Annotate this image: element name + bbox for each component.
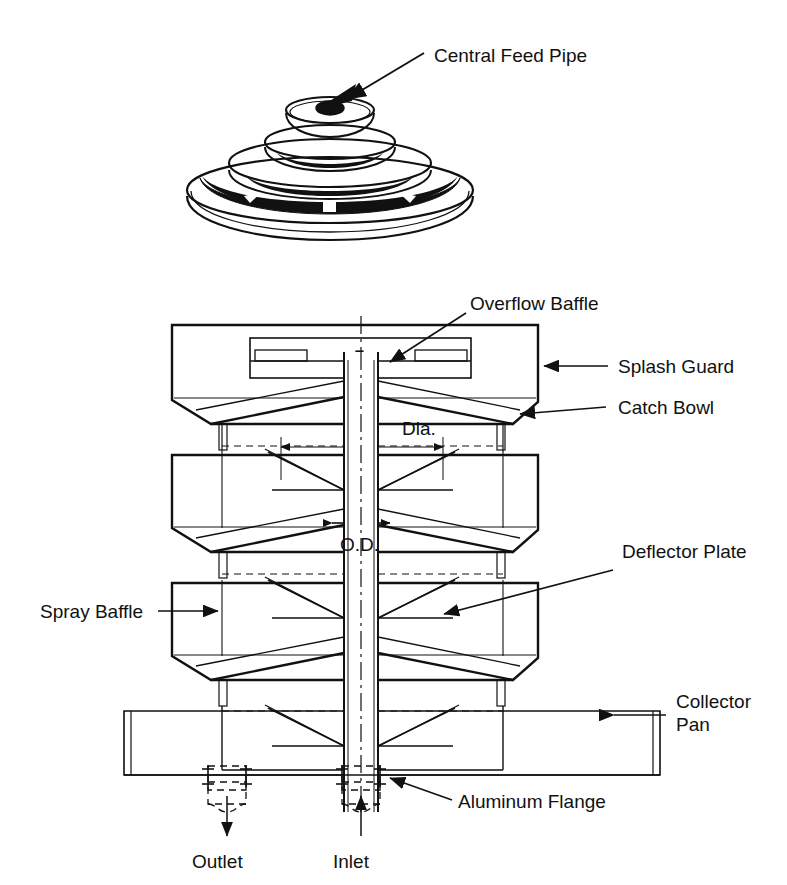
label-spray-baffle: Spray Baffle [40,601,143,622]
dimension-od: O.D. [340,534,379,555]
dimension-dia: Dia. [402,418,436,439]
label-overflow-baffle: Overflow Baffle [470,293,598,314]
label-catch-bowl: Catch Bowl [618,397,714,418]
diagram-canvas: Central Feed Pipe [0,0,787,885]
isometric-assembly [187,53,473,240]
label-deflector-plate: Deflector Plate [622,541,747,562]
label-splash-guard: Splash Guard [618,356,734,377]
bowl-post-right-3 [497,680,505,706]
label-central-feed-pipe: Central Feed Pipe [434,45,587,66]
section-assembly [124,313,666,836]
mid-disc-top [229,139,431,187]
label-aluminum-flange: Aluminum Flange [458,791,606,812]
bowl-post-left-3 [219,680,227,706]
technical-drawing-svg: Central Feed Pipe [0,0,787,885]
central-feed-pipe-leader [347,53,424,99]
overflow-baffle-slot-left [255,350,307,361]
label-outlet: Outlet [192,851,243,872]
label-collector-pan-line1: Collector [676,691,752,712]
label-collector-pan-line2: Pan [676,714,710,735]
overflow-baffle-slot-right [415,350,467,361]
label-inlet: Inlet [333,851,370,872]
collector-pan [124,711,660,775]
deflector-plate-leader [444,570,613,614]
aluminum-flange-leader [390,778,452,800]
vane-center [323,200,336,212]
